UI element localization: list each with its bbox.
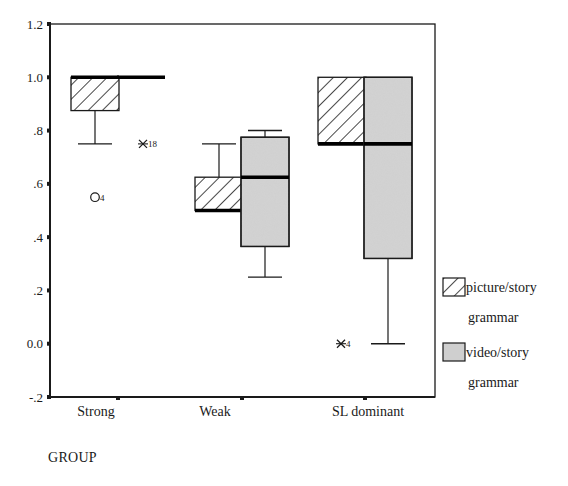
y-tick-mark (47, 235, 51, 239)
y-tick-label: .4 (33, 230, 43, 245)
x-category-label: Strong (77, 404, 114, 419)
y-tick-label: -.2 (29, 390, 43, 405)
y-tick-mark (47, 395, 51, 399)
legend-label-line1: video/story (466, 345, 529, 360)
y-tick-mark (47, 129, 51, 133)
outlier-asterisk: 18 (138, 139, 158, 149)
y-tick-label: 1.0 (27, 70, 43, 85)
box-video-weak (241, 131, 289, 278)
box-body (318, 77, 366, 144)
box-picture-weak (195, 144, 243, 211)
box-video-sl-dominant (364, 77, 412, 343)
x-category-label: SL dominant (332, 404, 404, 419)
box-plot-chart: 1.21.0.8.6.4.20.0-.2 StrongWeakSL domina… (0, 0, 568, 486)
outlier-circle: 4 (91, 193, 105, 203)
x-category-label: Weak (199, 404, 231, 419)
outlier-circle-icon (91, 193, 100, 202)
outlier-label: 4 (100, 193, 105, 203)
box-body (195, 177, 243, 210)
box-series (71, 77, 412, 343)
y-tick-label: .8 (33, 123, 43, 138)
legend-item: video/storygrammar (443, 343, 529, 390)
y-tick-mark (47, 22, 51, 26)
legend-label-line2: grammar (468, 310, 519, 325)
box-texture (364, 77, 412, 258)
legend: picture/storygrammarvideo/storygrammar (443, 278, 537, 390)
y-tick-label: .2 (33, 283, 43, 298)
legend-label-line1: picture/story (466, 280, 537, 295)
legend-label-line2: grammar (468, 375, 519, 390)
box-picture-strong (71, 77, 119, 144)
y-tick-label: .6 (33, 176, 43, 191)
x-tick-mark (116, 396, 120, 400)
y-tick-label: 0.0 (27, 336, 43, 351)
box-body (71, 77, 119, 110)
y-axis: 1.21.0.8.6.4.20.0-.2 (27, 17, 51, 405)
y-tick-mark (47, 288, 51, 292)
legend-item: picture/storygrammar (443, 278, 537, 325)
box-texture (241, 137, 289, 246)
x-axis-title: GROUP (48, 450, 97, 465)
gray-swatch-icon (443, 343, 465, 361)
y-tick-mark (47, 342, 51, 346)
x-tick-mark (240, 396, 244, 400)
outlier-label: 4 (346, 339, 351, 349)
hatch-swatch-icon (443, 278, 465, 296)
y-tick-mark (47, 75, 51, 79)
x-axis: StrongWeakSL dominant (77, 396, 404, 419)
x-tick-mark (363, 396, 367, 400)
box-picture-sl-dominant (318, 77, 366, 144)
outlier-asterisk: 4 (336, 339, 351, 349)
outlier-markers: 4184 (91, 139, 351, 349)
y-tick-mark (47, 182, 51, 186)
outlier-label: 18 (148, 139, 158, 149)
y-tick-label: 1.2 (27, 17, 43, 32)
